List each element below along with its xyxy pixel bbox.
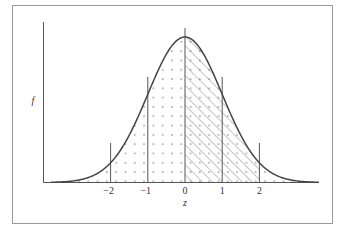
x-tick-label: 1 (220, 185, 225, 196)
x-tick-label: 0 (183, 185, 188, 196)
x-axis-label: z (182, 197, 187, 208)
y-axis-label: f (32, 95, 36, 106)
x-tick-labels: −2−1012 (103, 185, 262, 196)
x-tick-label: −2 (103, 185, 114, 196)
normal-distribution-figure: −2−1012 f z (0, 0, 340, 231)
x-tick-label: 2 (257, 185, 262, 196)
plot-area (44, 22, 319, 183)
x-tick-label: −1 (140, 185, 151, 196)
